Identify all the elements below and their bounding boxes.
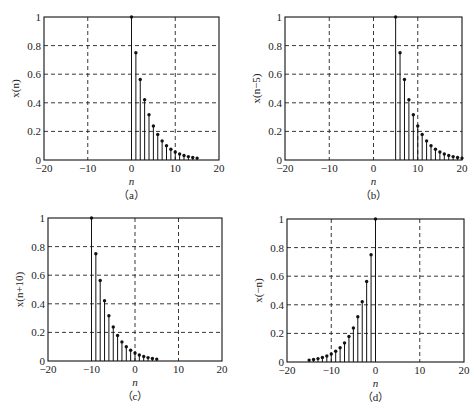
stem-marker	[365, 280, 368, 283]
subplot-caption: （d）	[362, 391, 390, 403]
x-tick-label: 0	[373, 364, 379, 376]
stem-marker	[352, 326, 355, 329]
stem-marker	[361, 300, 364, 303]
x-tick-label: 10	[414, 364, 426, 376]
stem-marker	[330, 352, 333, 355]
y-tick-label: 0.6	[270, 270, 284, 282]
stem-marker	[321, 356, 324, 359]
stem-marker	[356, 315, 359, 318]
x-tick-label: 20	[459, 364, 471, 376]
y-tick-label: 0.8	[270, 242, 284, 254]
y-axis-label: x(−n)	[252, 278, 265, 303]
stem-marker	[369, 253, 372, 256]
y-tick-label: 1	[279, 213, 285, 225]
stem-marker	[343, 341, 346, 344]
stem-marker	[307, 358, 310, 361]
stem-marker	[338, 346, 341, 349]
stem-marker	[347, 335, 350, 338]
stem-marker	[312, 358, 315, 361]
y-tick-label: 0.2	[270, 327, 284, 339]
y-tick-label: 0.4	[270, 299, 284, 311]
y-tick-label: 0	[279, 356, 285, 368]
stem-marker	[325, 354, 328, 357]
stem-plot-d: −20−100102000.20.40.60.81nx(−n)（d）	[0, 0, 474, 410]
stem-marker	[316, 357, 319, 360]
x-axis-label: n	[373, 377, 379, 389]
x-tick-label: −10	[323, 364, 341, 376]
subplot-d: −20−100102000.20.40.60.81nx(−n)（d）	[0, 0, 474, 410]
stem-marker	[334, 350, 337, 353]
